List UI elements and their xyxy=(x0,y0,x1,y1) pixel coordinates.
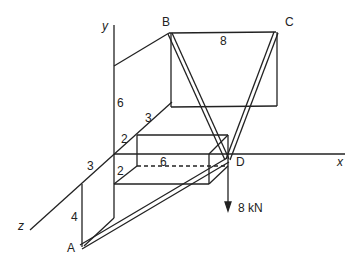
member-CD xyxy=(226,32,278,160)
member-BD xyxy=(168,33,229,160)
point-b-label: B xyxy=(162,16,170,28)
dim-y-height: 6 xyxy=(117,97,124,109)
point-a-label: A xyxy=(67,242,75,254)
point-c-label: C xyxy=(285,16,294,28)
z-axis-label: z xyxy=(18,220,24,232)
truss-diagram xyxy=(0,0,362,269)
dim-z-front: 3 xyxy=(87,160,94,172)
dim-bc: 8 xyxy=(220,35,227,47)
dim-box-length: 6 xyxy=(160,156,167,168)
arrowhead-icon xyxy=(225,202,231,211)
point-d-label: D xyxy=(236,156,245,168)
dim-box-depth: 2 xyxy=(121,133,128,145)
member-AD xyxy=(80,158,229,249)
load-label: 8 kN xyxy=(238,202,263,214)
dim-a-height: 4 xyxy=(71,211,78,223)
dim-box-height: 2 xyxy=(117,165,124,177)
x-axis-label: x xyxy=(337,156,343,168)
dim-z-back: 3 xyxy=(145,112,152,124)
y-axis-label: y xyxy=(102,20,108,32)
